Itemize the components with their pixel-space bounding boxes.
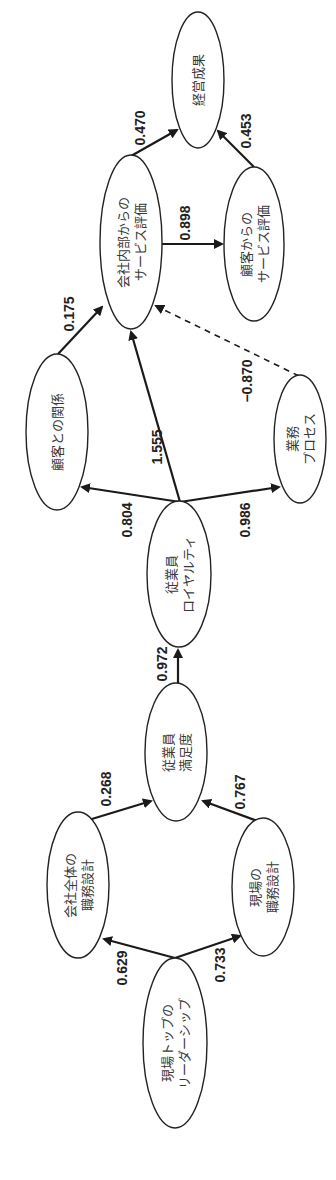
node-label-line-1: 従業員 <box>161 733 176 772</box>
node-company-job-design: 会社全体の 職務設計 <box>47 812 109 958</box>
node-label-line-1: 会社内部からの <box>116 197 131 288</box>
nodes: 経営成果 会社内部からの サービス評価 顧客からの サービス評価 顧客との関係 … <box>26 12 326 1128</box>
node-label-line-2: リーダーシップ <box>177 998 192 1089</box>
node-label: 顧客との関係 <box>50 393 65 471</box>
edge-loyalty-to-internal-service-eval <box>131 332 180 502</box>
node-business-results: 経営成果 <box>172 12 224 148</box>
node-label-line-2: サービス評価 <box>256 205 271 283</box>
node-site-job-design: 現場の 職務設計 <box>232 818 294 956</box>
edge-loyalty-to-customer-relationship <box>82 487 180 502</box>
node-internal-service-eval: 会社内部からの サービス評価 <box>100 155 162 329</box>
node-label-line-2: サービス評価 <box>133 203 148 281</box>
weight-label-0-453: 0.453 <box>238 113 254 148</box>
node-employee-satisfaction: 従業員 満足度 <box>145 683 207 821</box>
node-employee-loyalty: 従業員 ロイヤルティ <box>147 501 211 647</box>
weight-label-neg-0-870: −0.870 <box>239 359 255 402</box>
node-label-line-1: 現場の <box>248 868 263 907</box>
weight-label-0-767: 0.767 <box>232 774 248 809</box>
edge-leadership-to-site-job-design <box>175 936 240 958</box>
node-business-process: 業務 プロセス <box>274 375 326 503</box>
node-label-line-1: 従業員 <box>164 555 179 594</box>
weight-label-0-898: 0.898 <box>177 205 193 240</box>
weight-label-0-470: 0.470 <box>132 110 148 145</box>
edge-business-process-to-internal-service-eval <box>156 306 299 376</box>
weight-label-0-175: 0.175 <box>61 296 77 331</box>
weight-label-0-972: 0.972 <box>154 646 170 681</box>
node-customer-relationship: 顧客との関係 <box>26 354 88 510</box>
node-label-line-2: ロイヤルティ <box>181 536 196 613</box>
edge-loyalty-to-business-process <box>180 487 279 502</box>
node-label-line-2: プロセス <box>302 413 317 465</box>
weight-label-0-733: 0.733 <box>212 947 228 982</box>
weight-label-0-268: 0.268 <box>98 771 114 806</box>
node-label-line-1: 顧客からの <box>239 212 254 277</box>
weight-label-0-804: 0.804 <box>119 502 135 537</box>
node-label-line-2: 職務設計 <box>80 859 95 911</box>
node-label-line-1: 現場トップの <box>160 1004 175 1082</box>
edge-company-job-design-to-satisfaction <box>82 801 151 822</box>
node-label-line-1: 業務 <box>285 426 300 452</box>
node-customer-service-eval: 顧客からの サービス評価 <box>224 167 284 321</box>
node-label-line-1: 会社全体の <box>63 853 78 918</box>
weight-label-0-986: 0.986 <box>237 502 253 537</box>
node-label: 経営成果 <box>191 54 206 106</box>
node-label-line-2: 職務設計 <box>265 861 280 913</box>
weight-label-1-555: 1.555 <box>149 429 165 464</box>
node-label-line-2: 満足度 <box>178 733 193 772</box>
weight-label-0-629: 0.629 <box>114 950 130 985</box>
path-diagram: 経営成果 会社内部からの サービス評価 顧客からの サービス評価 顧客との関係 … <box>0 0 336 1180</box>
node-leadership: 現場トップの リーダーシップ <box>143 958 207 1128</box>
